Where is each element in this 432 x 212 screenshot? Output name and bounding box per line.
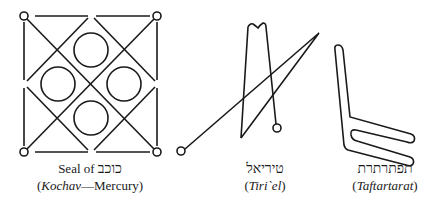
caption-prefix: Seal of [58,161,98,176]
corner-circle-icon [20,12,28,20]
taftartarat-sigil [335,45,415,166]
taftartarat-caption: תפתרתרת (Taftartarat) [335,160,432,194]
paren-close: ) [413,178,417,193]
tiriel-caption-line2: (Tiri`el) [225,177,305,194]
hebrew-name: טיריאל [225,160,305,177]
corner-circle-icon [20,148,28,156]
kochav-caption-line2: (Kochav—Mercury) [15,177,165,194]
end-circle-icon [177,147,185,155]
corner-circle-icon [153,12,161,20]
taftartarat-caption-line2: (Taftartarat) [335,177,432,194]
tiriel-caption: טיריאל (Tiri`el) [225,160,305,194]
translation: —Mercury) [81,178,143,193]
hebrew-name: כוכב [98,161,122,176]
end-circle-icon [273,124,281,132]
kochav-caption: Seal of כוכב (Kochav—Mercury) [15,160,165,194]
tiriel-sigil [177,23,319,155]
transliteration: Taftartarat [357,178,414,193]
transliteration: Kochav [41,178,81,193]
hebrew-name: תפתרתרת [335,160,432,177]
paren-close: ) [281,178,285,193]
kochav-caption-line1: Seal of כוכב [15,160,165,177]
transliteration: Tiri`el [249,178,282,193]
corner-circle-icon [153,148,161,156]
kochav-seal [20,12,161,156]
